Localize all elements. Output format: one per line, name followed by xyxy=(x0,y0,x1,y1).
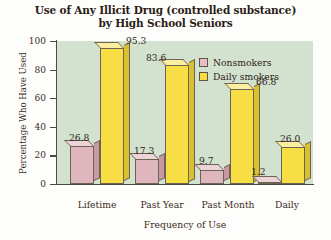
bar-nonsmokers-lifetime xyxy=(70,146,94,184)
legend-swatch-nonsmokers-icon xyxy=(199,58,208,67)
legend-label-daily-smokers: Daily smokers xyxy=(213,71,279,82)
x-category-label-lifetime: Lifetime xyxy=(66,199,128,210)
bar-top-face xyxy=(252,176,282,182)
bar-value-nonsmokers-lifetime: 26.8 xyxy=(69,132,89,143)
x-category-label-past-month: Past Month xyxy=(194,199,262,210)
bar-nonsmokers-past-year xyxy=(135,159,159,184)
bar-side-face xyxy=(189,58,195,181)
bar-side-face xyxy=(124,42,130,181)
chart-title: Use of Any Illicit Drug (controlled subs… xyxy=(0,4,331,29)
bar-value-nonsmokers-past-month: 9.7 xyxy=(199,155,214,166)
chart-legend: Nonsmokers Daily smokers xyxy=(199,56,279,84)
x-category-label-past-year: Past Year xyxy=(129,199,195,210)
y-tick-mark-0 xyxy=(50,184,56,185)
legend-item-daily-smokers: Daily smokers xyxy=(199,70,279,83)
y-tick-mark-80 xyxy=(50,70,56,71)
chart-figure: Use of Any Illicit Drug (controlled subs… xyxy=(0,0,331,240)
bar-face xyxy=(200,170,224,184)
bar-side-face xyxy=(305,141,311,181)
y-tick-mark-40 xyxy=(50,127,56,128)
bar-value-nonsmokers-daily: 1.2 xyxy=(251,166,266,177)
bar-face xyxy=(281,147,305,184)
bar-top-face xyxy=(94,42,124,48)
chart-title-line-1: Use of Any Illicit Drug (controlled subs… xyxy=(0,4,331,17)
bar-face xyxy=(100,48,124,184)
bar-daily-smokers-daily xyxy=(281,147,305,184)
bar-nonsmokers-past-month xyxy=(200,170,224,184)
bar-face xyxy=(165,65,189,185)
legend-item-nonsmokers: Nonsmokers xyxy=(199,56,279,69)
legend-swatch-daily-smokers-icon xyxy=(199,72,208,81)
x-axis-line xyxy=(56,184,314,185)
x-axis-label: Frequency of Use xyxy=(57,219,313,230)
bar-nonsmokers-daily xyxy=(258,182,282,184)
y-tick-mark-60 xyxy=(50,98,56,99)
chart-title-line-2: by High School Seniors xyxy=(0,17,331,30)
bar-daily-smokers-past-year xyxy=(165,65,189,185)
bar-face xyxy=(70,146,94,184)
legend-label-nonsmokers: Nonsmokers xyxy=(213,57,272,68)
y-axis-label: Percentage Who Have Used xyxy=(18,38,28,188)
bar-value-daily-smokers-lifetime: 95.3 xyxy=(126,35,146,46)
bar-face xyxy=(135,159,159,184)
bar-value-daily-smokers-past-year: 83.6 xyxy=(146,52,166,63)
y-tick-mark-20 xyxy=(50,155,56,156)
bar-value-daily-smokers-daily: 26.0 xyxy=(280,133,300,144)
bar-face xyxy=(258,182,282,184)
bar-daily-smokers-lifetime xyxy=(100,48,124,184)
bar-value-nonsmokers-past-year: 17.3 xyxy=(134,145,154,156)
y-axis-line xyxy=(56,40,57,185)
x-category-label-daily: Daily xyxy=(260,199,314,210)
y-tick-mark-100 xyxy=(50,41,56,42)
